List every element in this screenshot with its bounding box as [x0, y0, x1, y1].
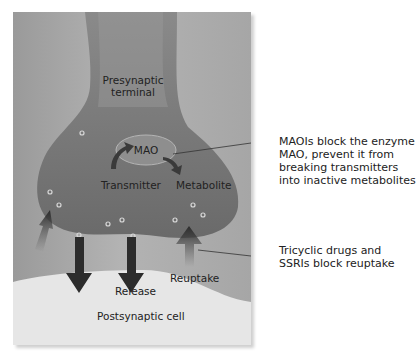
reuptake-leader-line: [198, 250, 251, 256]
mao-label: MAO: [131, 144, 161, 156]
release-label: Release: [115, 285, 156, 297]
transmitter-label: Transmitter: [101, 179, 161, 191]
metabolite-label: Metabolite: [176, 179, 232, 191]
presynaptic-terminal-label: Presynaptic terminal: [98, 74, 168, 98]
left-reuptake-arrow-icon: [35, 210, 53, 252]
maoi-annotation: MAOIs block the enzyme MAO, prevent it f…: [279, 135, 416, 187]
reuptake-label: Reuptake: [170, 272, 219, 284]
tricyclic-annotation: Tricyclic drugs and SSRIs block reuptake: [279, 244, 395, 270]
postsynaptic-cell-label: Postsynaptic cell: [97, 310, 185, 322]
synapse-diagram: Presynaptic terminal MAO Transmitter Met…: [13, 12, 251, 345]
